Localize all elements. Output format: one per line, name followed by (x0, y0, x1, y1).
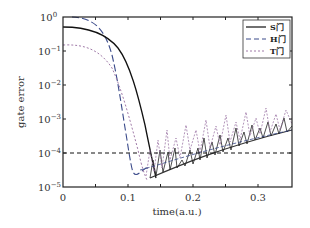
legend: S门 H门 T门 (243, 20, 290, 58)
series-S (63, 27, 156, 178)
legend-label-h: H门 (270, 34, 286, 44)
series-T (63, 45, 147, 180)
gate-error-chart: 0 0.1 0.2 0.3 100 10−1 10−2 10−3 10−4 10… (0, 0, 310, 228)
y-axis-label: gate error (15, 76, 26, 128)
x-tick-label: 0.2 (185, 192, 201, 203)
svg-text:100: 100 (40, 11, 57, 23)
x-tick-label: 0.1 (120, 192, 136, 203)
x-tick-label: 0.3 (250, 192, 266, 203)
svg-text:10−2: 10−2 (38, 79, 61, 91)
legend-label-t: T门 (270, 46, 284, 56)
svg-text:10−4: 10−4 (38, 147, 62, 159)
svg-text:10−3: 10−3 (38, 113, 61, 125)
y-tick-labels: 100 10−1 10−2 10−3 10−4 10−5 (38, 11, 62, 193)
svg-text:10−5: 10−5 (38, 181, 61, 193)
noisy-tail (140, 108, 292, 178)
x-tick-label: 0 (60, 192, 66, 203)
x-axis-label: time(a.u.) (152, 206, 201, 217)
svg-text:10−1: 10−1 (38, 45, 61, 57)
legend-label-s: S门 (270, 22, 284, 32)
